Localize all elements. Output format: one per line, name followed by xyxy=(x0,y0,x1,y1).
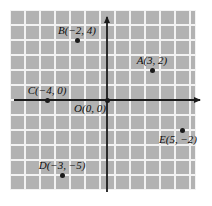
point-label-b: B(−2, 4) xyxy=(58,25,96,36)
point-label-d: D(−3, −5) xyxy=(39,160,86,171)
point-label-o: O(0, 0) xyxy=(74,103,106,114)
point-marker-d xyxy=(60,173,65,178)
point-label-e: E(5, −2) xyxy=(159,134,197,145)
point-marker-e xyxy=(180,128,185,133)
point-marker-o xyxy=(105,98,110,103)
point-label-c: C(−4, 0) xyxy=(28,85,67,96)
point-label-a: A(3, 2) xyxy=(137,55,168,66)
point-marker-c xyxy=(45,98,50,103)
coordinate-plane-figure: B(−2, 4) A(3, 2) C(−4, 0) O(0, 0) E(5, −… xyxy=(0,0,212,206)
point-marker-a xyxy=(150,68,155,73)
point-marker-b xyxy=(75,38,80,43)
